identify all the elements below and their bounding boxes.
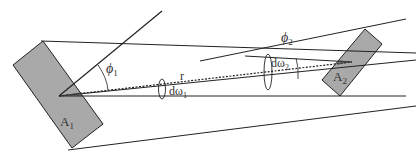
label-phi1: ϕ1 xyxy=(106,61,118,78)
label-domega1: dω1 xyxy=(169,84,187,100)
surface-a1 xyxy=(13,41,103,148)
view-factor-diagram: A1 A2 ϕ1 ϕ2 r dω1 dω2 xyxy=(0,0,416,163)
cone2-ray-a xyxy=(245,56,352,62)
label-r: r xyxy=(180,69,184,83)
normal-a1 xyxy=(59,11,162,96)
bottom-envelope-line xyxy=(68,106,416,150)
label-phi2: ϕ2 xyxy=(281,30,293,47)
distance-r-line xyxy=(59,62,352,96)
